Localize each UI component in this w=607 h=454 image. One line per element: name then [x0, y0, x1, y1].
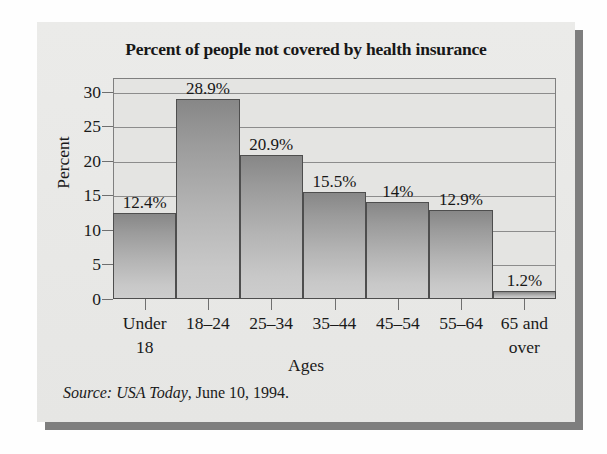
x-tick-mark — [208, 299, 209, 310]
y-tick-mark — [102, 161, 113, 162]
x-tick-mark — [335, 299, 336, 310]
chart-figure: Percent of people not covered by health … — [0, 0, 607, 454]
chart-panel: Percent of people not covered by health … — [37, 22, 575, 422]
x-category-label: 65 andover — [479, 312, 570, 359]
y-tick-label: 5 — [92, 254, 101, 275]
y-tick-mark — [102, 264, 113, 265]
source-publication: Source: USA Today — [63, 384, 188, 401]
source-note: Source: USA Today, June 10, 1994. — [63, 384, 289, 402]
y-tick-label: 15 — [84, 185, 102, 206]
x-tick-mark — [271, 299, 272, 310]
bar-value-label: 20.9% — [224, 136, 319, 153]
y-tick-mark — [102, 230, 113, 231]
y-tick-label: 20 — [84, 150, 102, 171]
bar-value-label: 1.2% — [477, 272, 572, 289]
y-tick-mark — [102, 195, 113, 196]
x-category-label-line: 65 and — [479, 312, 570, 336]
x-axis-title: Ages — [37, 355, 575, 376]
y-tick-mark — [102, 126, 113, 127]
bar — [176, 99, 239, 299]
y-tick-label: 0 — [92, 289, 101, 310]
bar — [366, 202, 429, 299]
bar — [493, 291, 556, 299]
bar-value-label: 28.9% — [160, 80, 255, 97]
y-axis-tick-marks — [102, 78, 114, 299]
y-axis-title: Percent — [53, 103, 74, 223]
bar — [303, 192, 366, 299]
y-tick-mark — [102, 92, 113, 93]
bar — [113, 213, 176, 299]
y-tick-mark — [102, 299, 113, 300]
bar-value-label: 12.9% — [413, 191, 508, 208]
source-date: , June 10, 1994. — [188, 384, 289, 401]
x-axis-tick-marks — [113, 299, 556, 311]
bars-group: 12.4%28.9%20.9%15.5%14%12.9%1.2% — [113, 78, 556, 299]
x-tick-mark — [145, 299, 146, 310]
y-tick-label: 25 — [84, 116, 102, 137]
y-tick-label: 30 — [84, 81, 102, 102]
x-tick-mark — [524, 299, 525, 310]
x-tick-mark — [398, 299, 399, 310]
x-tick-mark — [461, 299, 462, 310]
y-tick-label: 10 — [84, 219, 102, 240]
page-title: Percent of people not covered by health … — [37, 39, 575, 60]
